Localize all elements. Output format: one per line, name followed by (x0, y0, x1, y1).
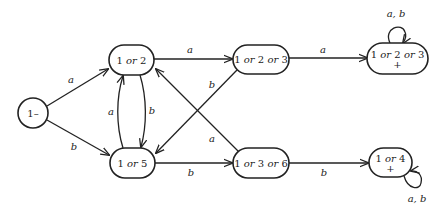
edge-1or2or3-to-1or5 (156, 70, 237, 153)
nodes: 1– 1 or 2 1 or 5 1 or 2 or 3 1 or 3 or 6… (18, 43, 428, 178)
edge-label: a (320, 44, 326, 55)
state-1or3or6[interactable]: 1 or 3 or 6 (233, 148, 289, 178)
state-final-1or2or3[interactable]: 1 or 2 or 3 + (367, 43, 428, 74)
edge-1or2-to-1or5 (140, 75, 145, 147)
edge-label: a (68, 74, 74, 85)
state-1or2-label: 1 or 2 (117, 55, 147, 66)
final-marker: + (393, 59, 401, 70)
state-1or3or6-label: 1 or 3 or 6 (234, 158, 288, 169)
state-final-1or4[interactable]: 1 or 4 + (369, 148, 412, 177)
edge-label: b (209, 79, 215, 90)
state-1or5-label: 1 or 5 (118, 158, 148, 169)
edge-label: b (149, 105, 155, 116)
edge-label: a (187, 44, 193, 55)
edge-start-to-1or2 (47, 69, 108, 106)
state-1or5[interactable]: 1 or 5 (110, 148, 155, 178)
edge-1or5-to-1or2 (118, 76, 123, 148)
edge-label: b (321, 167, 327, 178)
loop-label: a, b (408, 193, 427, 204)
state-1or2[interactable]: 1 or 2 (109, 45, 154, 75)
state-1or2or3-label: 1 or 2 or 3 (234, 54, 288, 65)
automaton-diagram: 1– 1 or 2 1 or 5 1 or 2 or 3 1 or 3 or 6… (0, 0, 442, 215)
loop-final123 (388, 27, 405, 43)
edge-label: a (108, 106, 114, 117)
state-start-label: 1– (27, 108, 38, 119)
state-start[interactable]: 1– (18, 98, 48, 128)
loop-label: a, b (387, 8, 406, 19)
state-1or2or3[interactable]: 1 or 2 or 3 (233, 45, 289, 74)
edge-label: b (188, 167, 194, 178)
final-marker: + (386, 163, 394, 174)
edge-label: b (71, 141, 77, 152)
edge-start-to-1or5 (47, 120, 109, 155)
edge-label: a (209, 133, 215, 144)
